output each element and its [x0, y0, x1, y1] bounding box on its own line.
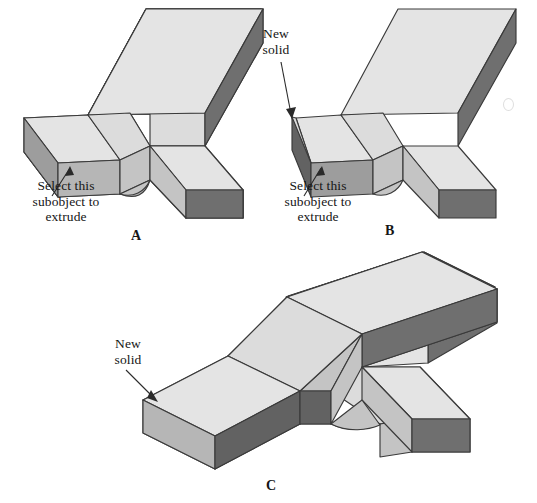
- figure-letter-a: A: [131, 228, 141, 244]
- solid-models-illustration: .e{stroke:#3a3a3a;stroke-width:1.15;stro…: [0, 0, 537, 503]
- figure-letter-b: B: [385, 223, 395, 239]
- figure-root: .e{stroke:#3a3a3a;stroke-width:1.15;stro…: [0, 0, 537, 503]
- solid-model-c-overlay: [143, 252, 497, 469]
- callout-arrow-c-new: [126, 370, 158, 402]
- callout-a-select-subobject: Select this subobject to extrude: [6, 178, 126, 225]
- figure-letter-c: C: [266, 478, 276, 494]
- callout-b-select-subobject: Select this subobject to extrude: [258, 178, 378, 225]
- callout-arrow-b-new: [281, 62, 296, 119]
- scan-artifact-mark: [503, 98, 514, 111]
- callout-b-new-solid: New solid: [249, 26, 303, 57]
- callout-c-new-solid: New solid: [101, 336, 155, 367]
